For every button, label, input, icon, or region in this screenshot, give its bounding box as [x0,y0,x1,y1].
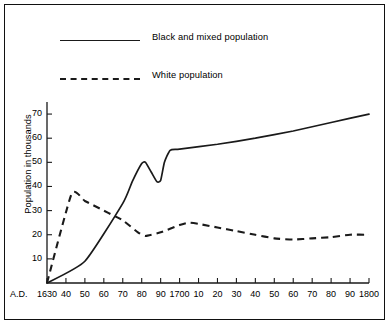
plot-area: 10203040506070 1630405060708090170010203… [47,102,369,283]
x-tick-marks [47,278,369,283]
y-tick-marks [47,114,52,259]
series-line-white-population [47,192,369,283]
legend-entry-white: White population [60,69,360,91]
legend-sample-solid-line-icon [60,40,140,41]
chart-figure: Black and mixed population White populat… [0,0,389,324]
legend-label-black-and-mixed: Black and mixed population [152,32,268,42]
chart-legend: Black and mixed population White populat… [60,31,360,91]
legend-entry-black-and-mixed: Black and mixed population [60,31,360,53]
y-tick-label: 10 [20,253,42,263]
axis-spines [47,102,369,283]
plot-svg [47,102,369,283]
legend-label-white: White population [152,70,223,80]
y-tick-label: 20 [20,229,42,239]
x-tick-label: 1800 [354,289,384,299]
figure-frame: Black and mixed population White populat… [4,4,385,320]
series-line-black-and-mixed-population [47,114,369,283]
y-tick-label: 60 [20,132,42,142]
y-tick-label: 50 [20,156,42,166]
y-tick-label: 40 [20,180,42,190]
legend-sample-dashed-line-icon [60,78,140,80]
y-tick-label: 30 [20,205,42,215]
y-tick-label: 70 [20,108,42,118]
era-prefix-label: A.D. [10,289,28,299]
